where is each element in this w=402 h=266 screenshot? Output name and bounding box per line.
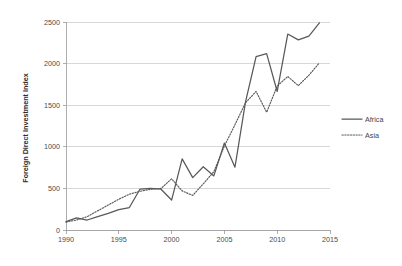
y-tick-label: 2500 (44, 18, 60, 27)
y-tick-label: 2000 (44, 59, 60, 68)
y-tick-label: 1000 (44, 142, 60, 151)
x-tick-label: 1990 (58, 235, 74, 244)
data-series-group (66, 23, 319, 222)
x-tick-label-group: 199019952000200520102015 (58, 235, 338, 244)
gridlines-group (66, 22, 330, 230)
series-line-asia (66, 63, 319, 222)
legend: AfricaAsia (342, 115, 383, 140)
x-tick-group (66, 230, 330, 234)
chart-container: 05001000150020002500 1990199520002005201… (0, 0, 402, 266)
y-axis-title: Foreign Direct Investment Index (21, 73, 30, 182)
x-tick-label: 2015 (322, 235, 338, 244)
x-tick-label: 2005 (216, 235, 232, 244)
axes-group (63, 22, 330, 230)
legend-label-africa: Africa (365, 115, 383, 124)
line-chart: 05001000150020002500 1990199520002005201… (0, 0, 402, 266)
x-tick-label: 2000 (164, 235, 180, 244)
y-tick-label: 0 (56, 226, 60, 235)
y-axis-title-group: Foreign Direct Investment Index (21, 73, 30, 182)
x-tick-label: 1995 (111, 235, 127, 244)
legend-label-asia: Asia (365, 131, 379, 140)
x-tick-label: 2010 (269, 235, 285, 244)
y-tick-label-group: 05001000150020002500 (44, 18, 60, 235)
y-tick-label: 1500 (44, 101, 60, 110)
y-tick-label: 500 (48, 184, 60, 193)
series-line-africa (66, 23, 319, 222)
